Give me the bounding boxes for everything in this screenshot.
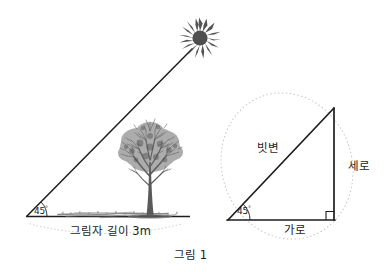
left-angle-label: 45° <box>34 205 48 216</box>
shadow-length-label: 그림자 길이 3m <box>70 226 151 238</box>
tree-icon <box>118 119 183 219</box>
figure-canvas <box>0 0 384 280</box>
figure-caption: 그림 1 <box>174 250 207 262</box>
vertical-side-label: 세로 <box>348 161 370 173</box>
left-angle-degree-symbol: ° <box>45 204 48 211</box>
horizontal-side-label: 가로 <box>284 225 306 237</box>
right-triangle <box>227 108 335 220</box>
triangle-hypotenuse-side <box>228 108 334 220</box>
figure-container: 45° 그림자 길이 3m 45° 빗변 세로 가로 그림 1 <box>0 0 384 280</box>
left-angle-value: 45 <box>34 206 45 216</box>
triangle-angle-label: 45° <box>237 205 251 216</box>
triangle-angle-degree-symbol: ° <box>248 204 251 211</box>
hypotenuse-label: 빗변 <box>257 143 279 155</box>
triangle-angle-value: 45 <box>237 206 248 216</box>
sun-icon <box>179 18 221 59</box>
